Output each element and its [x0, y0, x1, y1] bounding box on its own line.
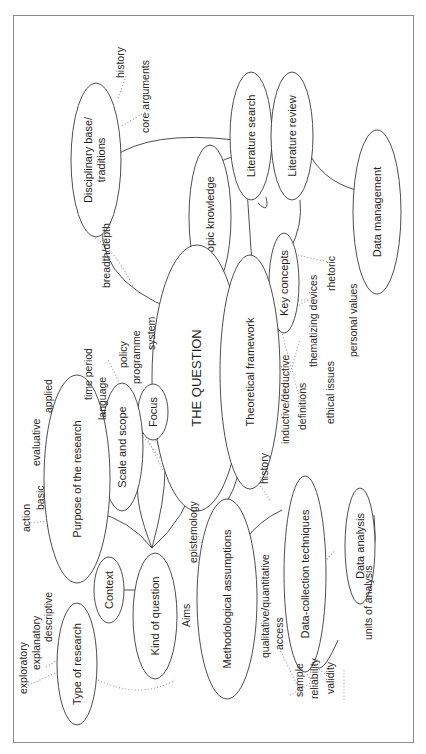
node-label: traditions [95, 137, 107, 182]
label-exploratory: exploratory [17, 641, 29, 694]
label-applied: applied [42, 379, 54, 413]
node-label: Literature review [286, 95, 298, 176]
label-action: action [20, 504, 32, 532]
node-label: Disciplinary base/ [82, 116, 94, 203]
mind-map: Disciplinary base/ traditions Literature… [0, 0, 426, 754]
label-descriptive: descriptive [42, 592, 54, 642]
node-label: Type of research [71, 623, 83, 705]
label-language: language [96, 377, 108, 420]
label-personal-values: personal values [347, 283, 359, 357]
label-explanatory: explanatory [30, 615, 42, 670]
node-literature-search[interactable]: Literature search [230, 72, 272, 200]
node-disciplinary-base[interactable]: Disciplinary base/ traditions [71, 83, 121, 237]
label-access: access [273, 617, 285, 650]
node-type-of-research[interactable]: Type of research [57, 603, 97, 725]
node-data-collection-techniques[interactable]: Data-collection techniques [284, 476, 326, 672]
label-system: system [145, 316, 157, 350]
label-qualitative-quantitative: qualitative/quantitative [259, 554, 271, 658]
node-theoretical-framework[interactable]: Theoretical framework [220, 255, 280, 489]
label-reliability: reliability [308, 657, 320, 699]
label-units-of-analysis: units of analysis [362, 565, 374, 640]
label-policy: policy [117, 340, 129, 368]
node-kind-of-question[interactable]: Kind of question [133, 553, 177, 679]
node-label: Data management [371, 167, 383, 258]
label-epistemology: epistemology [187, 500, 199, 563]
label-inductive-deductive: inductive/deductive [279, 355, 291, 444]
label-time-period: time period [82, 348, 94, 400]
node-label: Focus [147, 397, 159, 427]
label-evaluative: evaluative [30, 419, 42, 466]
label-definitions: definitions [296, 383, 308, 430]
node-label: Methodological assumptions [221, 529, 233, 668]
node-data-management[interactable]: Data management [353, 130, 401, 294]
node-label: Key concepts [278, 249, 290, 316]
label-history: history [114, 46, 126, 78]
label-breadth-depth: breadth/depth [100, 223, 112, 288]
label-history: history [258, 452, 270, 484]
node-label: Scale and scope [116, 406, 128, 487]
node-label: Context [103, 571, 115, 609]
node-methodological-assumptions[interactable]: Methodological assumptions [197, 499, 257, 699]
node-label: Data-collection techniques [299, 509, 311, 639]
node-label: Theoretical framework [244, 317, 256, 426]
node-context[interactable]: Context [94, 557, 124, 623]
node-label: Literature search [245, 95, 257, 178]
node-label: Kind of question [149, 577, 161, 656]
label-core-arguments: core arguments [139, 60, 151, 133]
label-validity: validity [324, 661, 336, 694]
label-aims: Aims [180, 604, 192, 627]
label-basic: basic [34, 485, 46, 510]
label-thematizing-devices: thematizing devices [307, 275, 319, 367]
label-programme: programme [130, 330, 142, 384]
label-rhetoric: rhetoric [325, 256, 337, 291]
node-label: Purpose of the research [71, 420, 83, 537]
node-literature-review[interactable]: Literature review [271, 72, 313, 200]
node-label: Topic knowledge [204, 176, 216, 257]
label-ethical-issues: ethical issues [324, 361, 336, 424]
node-label: THE QUESTION [189, 329, 204, 427]
label-sample: sample [293, 663, 305, 697]
